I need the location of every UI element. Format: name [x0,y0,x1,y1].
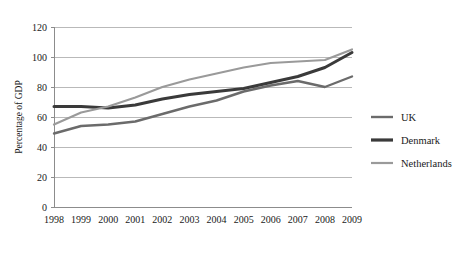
y-tick-label: 60 [37,112,47,123]
x-tick-label: 2009 [342,214,362,225]
x-tick-label: 2007 [288,214,308,225]
x-tick-label: 2001 [125,214,145,225]
x-axis-tick-labels: 1998199920002001200220032004200520062007… [44,214,362,225]
x-tick-label: 2003 [179,214,199,225]
y-axis-title: Percentage of GDP [14,80,24,153]
y-tick-label: 120 [32,22,47,33]
x-tick-label: 2002 [152,214,172,225]
y-tick-label: 40 [37,142,47,153]
line-chart: 020406080100120 199819992000200120022003… [0,0,458,258]
legend-label-uk: UK [401,112,417,123]
y-tick-label: 100 [32,52,47,63]
chart-legend: UKDenmarkNetherlands [371,112,452,169]
x-tick-label: 2004 [207,214,227,225]
y-tick-label: 80 [37,82,47,93]
data-series [54,50,352,134]
legend-label-netherlands: Netherlands [401,158,452,169]
x-tick-label: 1999 [71,214,91,225]
x-tick-label: 2008 [315,214,335,225]
chart-container: 020406080100120 199819992000200120022003… [0,0,458,258]
gridlines [54,27,352,207]
x-tick-label: 2006 [261,214,281,225]
x-tick-label: 1998 [44,214,64,225]
x-tick-label: 2000 [98,214,118,225]
legend-label-denmark: Denmark [401,135,441,146]
x-tick-label: 2005 [234,214,254,225]
y-axis-tick-labels: 020406080100120 [32,22,47,213]
series-line-uk [54,77,352,134]
y-tick-label: 0 [42,202,47,213]
y-tick-label: 20 [37,172,47,183]
